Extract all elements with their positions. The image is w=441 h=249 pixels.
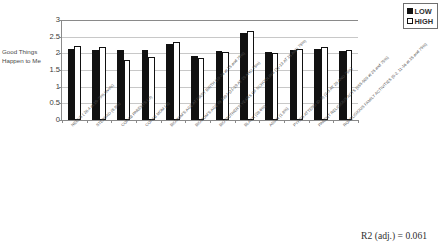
x-axis-tick-mark [259,120,260,123]
bar-high [247,31,254,120]
r2-annotation: R2 (adj.) = 0.061 [361,230,427,241]
bar-low [166,44,173,120]
bar-low [68,49,75,120]
x-axis-tick-mark [309,120,310,123]
plot-area [61,20,358,121]
filled-square-icon [407,8,413,14]
bar-low [339,51,346,120]
legend-item-high: HIGH [407,16,433,26]
bar-low [142,50,149,120]
bar-low [216,51,223,120]
x-axis-tick-mark [161,120,162,123]
bar-low [265,52,272,120]
y-axis-title: Good Things Happen to Me [2,47,42,65]
x-axis-tick-mark [136,120,137,123]
bar-low [290,50,297,120]
bar-low [191,56,198,120]
x-axis-tick-mark [185,120,186,123]
bar-high [198,58,205,120]
chart-figure: Good Things Happen to Me 00.511.522.53 N… [0,0,441,249]
bar-high [296,49,303,120]
bar-high [148,57,155,120]
bar-high [74,46,81,120]
bar-high [173,42,180,120]
legend-item-label: HIGH [415,17,433,26]
bar-low [92,50,99,120]
bars-layer [62,20,358,120]
bar-high [321,47,328,120]
x-axis-tick-mark [235,120,236,123]
bar-low [314,49,321,120]
x-axis-tick-mark [87,120,88,123]
x-axis-tick-mark [111,120,112,123]
bar-high [346,50,353,120]
legend-item-low: LOW [407,6,433,16]
x-axis-tick-mark [333,120,334,123]
bar-low [240,33,247,120]
x-axis-tick-mark [284,120,285,123]
x-axis-tick-mark [62,120,63,123]
bar-high [222,52,229,120]
y-axis-tick-labels: 00.511.522.53 [40,16,60,120]
bar-high [124,60,131,120]
hollow-square-icon [407,18,413,24]
chart-legend: LOW HIGH [403,3,438,29]
x-axis-tick-mark [210,120,211,123]
x-axis-tick-mark [358,120,359,123]
bar-low [117,50,124,120]
bar-high [272,53,279,120]
bar-high [99,47,106,120]
legend-item-label: LOW [415,7,432,16]
